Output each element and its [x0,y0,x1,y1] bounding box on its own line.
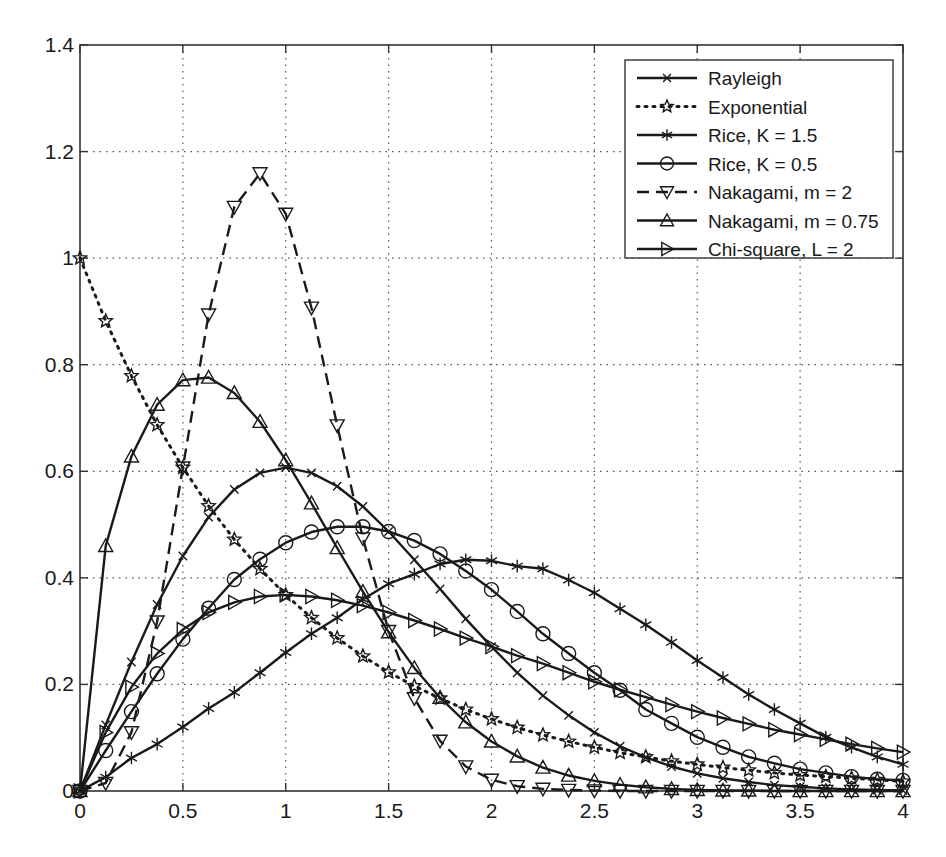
x-tick-label: 4 [897,799,909,822]
marker-triangle-down-icon [356,533,370,546]
marker-asterisk-icon [409,568,420,581]
marker-x-icon [204,513,212,521]
marker-x-icon [333,482,341,490]
y-tick-label: 0 [62,779,74,802]
y-tick-label: 0.8 [45,353,74,376]
chart: 00.511.522.533.54 00.20.40.60.811.21.4 R… [0,0,946,857]
marker-x-icon [513,669,521,677]
series-nakagami-m-2 [73,168,910,798]
marker-asterisk-icon [666,636,677,649]
marker-x-icon [539,691,547,699]
x-axis-tick-labels: 00.511.522.533.54 [74,799,909,822]
x-tick-label: 2.5 [580,799,609,822]
series-line [80,560,903,791]
marker-star-icon [459,702,472,715]
legend-label: Chi-square, L = 2 [708,239,854,260]
marker-x-icon [436,585,444,593]
y-tick-label: 1.4 [45,33,75,56]
legend-label: Exponential [708,97,807,118]
marker-asterisk-icon [126,752,137,765]
marker-asterisk-icon [743,688,754,701]
marker-triangle-down-icon [407,693,421,706]
marker-asterisk-icon [152,738,163,751]
x-tick-label: 3.5 [786,799,815,822]
y-tick-label: 0.4 [45,566,75,589]
x-tick-label: 2 [486,799,498,822]
marker-asterisk-icon [563,574,574,587]
marker-asterisk-icon [203,702,214,715]
marker-star-icon [716,761,729,774]
marker-asterisk-icon [769,703,780,716]
marker-asterisk-icon [383,577,394,590]
marker-x-icon [410,556,418,564]
marker-asterisk-icon [692,654,703,667]
marker-x-icon [230,485,238,493]
marker-asterisk-icon [640,618,651,631]
marker-asterisk-icon [717,671,728,684]
legend-label: Nakagami, m = 0.75 [708,211,879,232]
legend-label: Rayleigh [708,68,782,89]
x-tick-label: 0.5 [168,799,197,822]
marker-asterisk-icon [332,612,343,625]
marker-x-icon [462,615,470,623]
marker-star-icon [382,665,395,678]
y-tick-label: 0.6 [45,459,74,482]
marker-asterisk-icon [615,602,626,615]
x-tick-label: 3 [691,799,703,822]
marker-x-icon [359,502,367,510]
marker-asterisk-icon [177,721,188,734]
x-tick-label: 1 [280,799,292,822]
legend-label: Nakagami, m = 2 [708,182,852,203]
x-tick-label: 0 [74,799,86,822]
y-axis-tick-labels: 00.20.40.60.811.21.4 [45,33,75,802]
data-series [73,168,910,798]
marker-asterisk-icon [589,586,600,599]
marker-star-icon [536,728,549,741]
marker-x-icon [564,711,572,719]
legend: RayleighExponentialRice, K = 1.5Rice, K … [625,60,893,260]
y-tick-label: 1 [62,246,74,269]
legend-label: Rice, K = 0.5 [708,154,817,175]
marker-asterisk-icon [306,628,317,641]
x-tick-label: 1.5 [374,799,403,822]
y-tick-label: 1.2 [45,140,74,163]
y-tick-label: 0.2 [45,672,74,695]
legend-label: Rice, K = 1.5 [708,125,817,146]
